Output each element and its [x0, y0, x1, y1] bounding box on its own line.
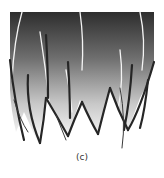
figure-caption: (c) — [0, 152, 164, 162]
hair-illustration-figure: (c) — [0, 0, 164, 178]
